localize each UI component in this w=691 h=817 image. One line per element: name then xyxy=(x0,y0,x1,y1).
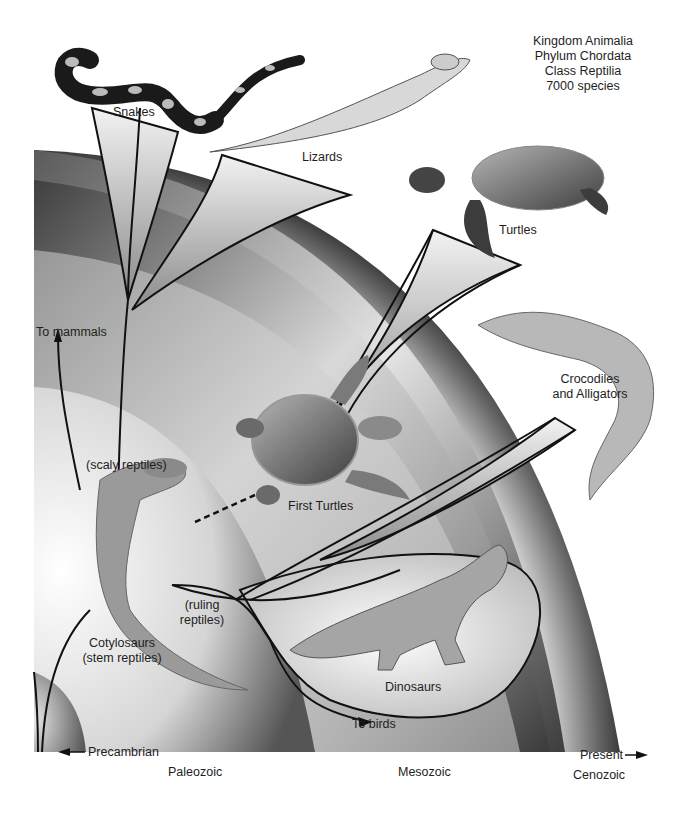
reptile-phylogeny-diagram xyxy=(0,0,691,817)
cotylosaurs-label-line1: Cotylosaurs xyxy=(72,636,172,651)
paleozoic-label: Paleozoic xyxy=(168,765,222,780)
turtles-label: Turtles xyxy=(499,223,537,238)
to-birds-label: To birds xyxy=(352,717,396,732)
phylum-label: Phylum Chordata xyxy=(498,49,668,64)
cotylosaurs-label: Cotylosaurs (stem reptiles) xyxy=(72,636,172,666)
species-count-label: 7000 species xyxy=(498,79,668,94)
scaly-reptiles-label: (scaly reptiles) xyxy=(86,458,167,473)
to-mammals-label: To mammals xyxy=(36,325,107,340)
mesozoic-label: Mesozoic xyxy=(398,765,451,780)
first-turtles-label: First Turtles xyxy=(288,499,353,514)
ruling-reptiles-label-line1: (ruling xyxy=(172,598,232,613)
class-label: Class Reptilia xyxy=(498,64,668,79)
crocodiles-label: Crocodiles and Alligators xyxy=(530,372,650,402)
crocodiles-label-line1: Crocodiles xyxy=(530,372,650,387)
ruling-reptiles-label-line2: reptiles) xyxy=(172,613,232,628)
snakes-label: Snakes xyxy=(113,105,155,120)
lizard-illustration xyxy=(210,54,470,152)
dinosaurs-label: Dinosaurs xyxy=(385,680,441,695)
lizards-label: Lizards xyxy=(302,150,342,165)
classification-block: Kingdom Animalia Phylum Chordata Class R… xyxy=(498,34,668,94)
crocodiles-label-line2: and Alligators xyxy=(530,387,650,402)
kingdom-label: Kingdom Animalia xyxy=(498,34,668,49)
ruling-reptiles-label: (ruling reptiles) xyxy=(172,598,232,628)
precambrian-label: Precambrian xyxy=(88,745,159,760)
cenozoic-label: Cenozoic xyxy=(573,768,625,783)
cotylosaurs-label-line2: (stem reptiles) xyxy=(72,651,172,666)
present-label: Present xyxy=(580,748,623,763)
